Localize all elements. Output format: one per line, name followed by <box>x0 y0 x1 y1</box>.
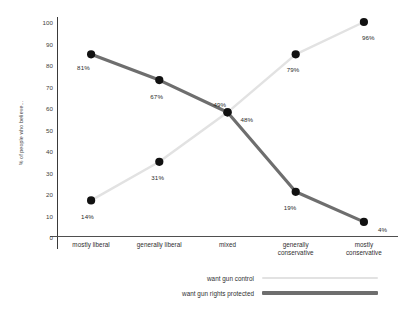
legend-item-gun-rights: want gun rights protected <box>132 287 382 299</box>
series-line-gun-control <box>91 22 364 200</box>
y-axis-tick: 100 <box>29 19 53 26</box>
x-axis-tick: mostlyconservative <box>321 241 407 258</box>
y-axis-tick: 20 <box>29 191 53 198</box>
y-axis-tick-labels: 1009080706050403020100 <box>25 22 53 237</box>
legend-swatch-gun-rights <box>262 291 378 294</box>
y-axis-tick: 0 <box>29 234 53 241</box>
data-point-label: 4% <box>378 226 387 233</box>
data-point-marker <box>292 188 300 196</box>
legend-label-gun-control: want gun control <box>132 275 262 282</box>
gun-opinion-line-chart: % of people who believe... 1009080706050… <box>0 0 417 317</box>
data-point-marker <box>87 50 95 58</box>
data-point-marker <box>223 108 231 116</box>
x-axis-line <box>50 236 398 237</box>
data-point-marker <box>155 76 163 84</box>
data-point-label: 96% <box>362 34 375 41</box>
y-axis-tick: 90 <box>29 40 53 47</box>
y-axis-tick: 30 <box>29 169 53 176</box>
legend-label-gun-rights: want gun rights protected <box>132 290 262 297</box>
data-point-label: 31% <box>151 174 164 181</box>
legend-swatch-gun-control <box>262 277 378 280</box>
data-point-marker <box>292 50 300 58</box>
data-point-marker <box>87 196 95 204</box>
series-line-gun-rights <box>91 54 364 222</box>
chart-legend: want gun control want gun rights protect… <box>132 272 382 308</box>
data-point-marker <box>223 108 231 116</box>
data-point-label: 49% <box>214 101 227 108</box>
y-axis-tick: 80 <box>29 62 53 69</box>
y-axis-tick: 50 <box>29 126 53 133</box>
data-point-marker <box>360 18 368 26</box>
y-axis-tick: 70 <box>29 83 53 90</box>
y-axis-tick: 10 <box>29 212 53 219</box>
data-point-label: 79% <box>287 66 300 73</box>
data-point-label: 19% <box>284 204 297 211</box>
data-point-label: 48% <box>241 116 254 123</box>
data-point-marker <box>360 218 368 226</box>
legend-item-gun-control: want gun control <box>132 272 382 284</box>
y-axis-tick: 40 <box>29 148 53 155</box>
x-axis-tick-labels: mostly liberalgenerally liberalmixedgene… <box>57 241 398 271</box>
y-axis-tick: 60 <box>29 105 53 112</box>
data-point-marker <box>155 158 163 166</box>
data-point-label: 81% <box>77 64 90 71</box>
y-axis-title: % of people who believe... <box>18 68 24 198</box>
y-axis-line <box>57 17 58 249</box>
data-point-label: 67% <box>150 93 163 100</box>
data-point-label: 14% <box>81 213 94 220</box>
